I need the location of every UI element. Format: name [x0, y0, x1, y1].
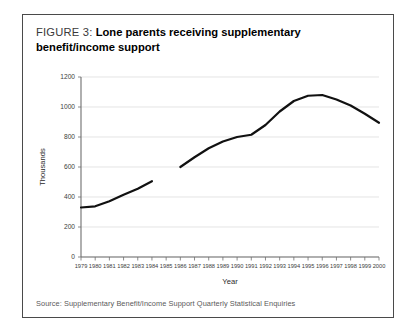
source-note: Source: Supplementary Benefit/Income Sup…: [36, 299, 295, 308]
x-axis-tick-label: 1999: [358, 263, 371, 269]
x-axis-tick-label: 1980: [89, 263, 102, 269]
data-series-line: [81, 181, 152, 207]
y-axis-tick-label: 800: [64, 133, 75, 140]
y-axis-title: Thousands: [38, 148, 47, 186]
y-axis-tick-label: 1200: [60, 73, 75, 80]
x-axis-title: Year: [222, 277, 238, 286]
y-axis-tick-label: 200: [64, 223, 75, 230]
figure-title-block: FIGURE 3: Lone parents receiving supplem…: [36, 25, 376, 55]
x-axis-tick-label: 1979: [75, 263, 88, 269]
x-axis-tick-label: 1985: [160, 263, 173, 269]
chart-plot-area: 0200400600800100012001979198019811982198…: [23, 63, 395, 295]
y-axis-tick-label: 400: [64, 193, 75, 200]
x-axis-tick-label: 1997: [330, 263, 343, 269]
x-axis-tick-label: 1984: [146, 263, 159, 269]
y-axis-tick-label: 0: [71, 253, 75, 260]
x-axis-tick-label: 1988: [202, 263, 215, 269]
x-axis-tick-label: 1989: [217, 263, 230, 269]
x-axis-tick-label: 2000: [373, 263, 386, 269]
x-axis-tick-label: 1993: [273, 263, 286, 269]
data-series-line: [180, 95, 379, 167]
x-axis-tick-label: 1992: [259, 263, 272, 269]
x-axis-tick-label: 1983: [131, 263, 144, 269]
x-axis-tick-label: 1995: [302, 263, 315, 269]
x-axis-tick-label: 1994: [288, 263, 301, 269]
x-axis-tick-label: 1981: [103, 263, 116, 269]
x-axis-tick-label: 1991: [245, 263, 258, 269]
figure-container: FIGURE 3: Lone parents receiving supplem…: [22, 14, 394, 318]
x-axis-tick-label: 1986: [174, 263, 187, 269]
y-axis-tick-label: 1000: [60, 103, 75, 110]
y-axis-tick-label: 600: [64, 163, 75, 170]
line-chart: 0200400600800100012001979198019811982198…: [23, 63, 395, 295]
x-axis-tick-label: 1996: [316, 263, 329, 269]
x-axis-tick-label: 1990: [231, 263, 244, 269]
x-axis-tick-label: 1987: [188, 263, 201, 269]
x-axis-tick-label: 1982: [117, 263, 130, 269]
x-axis-tick-label: 1998: [344, 263, 357, 269]
figure-number-label: FIGURE 3:: [36, 26, 93, 38]
